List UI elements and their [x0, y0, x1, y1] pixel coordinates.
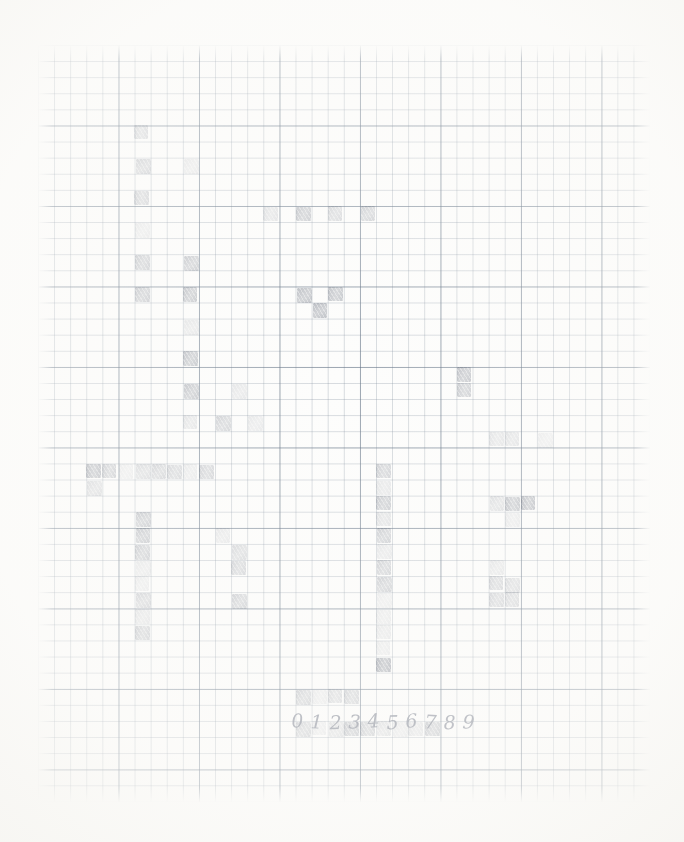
shaded-cell [231, 561, 246, 576]
handwritten-digit: 2 [326, 713, 345, 732]
handwritten-digit: 0 [287, 711, 307, 731]
shaded-cell [183, 464, 197, 479]
shaded-cell [134, 191, 149, 205]
shaded-cell [376, 481, 391, 495]
shaded-cell [489, 593, 504, 608]
shaded-cell [102, 464, 116, 478]
shaded-cell [505, 432, 519, 447]
shaded-cell [361, 206, 376, 222]
shaded-cell [376, 625, 391, 640]
shaded-cell [184, 319, 199, 334]
handwritten-digit: 6 [401, 711, 421, 731]
shaded-cell [376, 496, 391, 511]
handwritten-digit-row: 0123456789 [288, 712, 478, 731]
screenshot-root: 0123456789 [0, 0, 684, 842]
handwritten-digit: 5 [383, 713, 402, 732]
shaded-cell [376, 464, 391, 478]
shaded-cell [505, 592, 519, 607]
shaded-cell [489, 576, 503, 591]
handwritten-digit: 1 [307, 712, 327, 732]
shaded-cell [505, 513, 520, 527]
shaded-cell [216, 416, 231, 431]
handwritten-digit: 8 [440, 713, 459, 732]
shaded-cell [135, 576, 149, 591]
shaded-cell [136, 561, 151, 576]
shaded-cell [377, 560, 391, 575]
shaded-cell [136, 512, 151, 528]
shaded-cell [135, 255, 150, 270]
grid-area [38, 45, 650, 802]
shaded-cell [184, 159, 199, 174]
shaded-cell [344, 690, 359, 705]
shaded-cell [199, 465, 214, 480]
shaded-cell [184, 256, 199, 271]
shaded-cell [457, 367, 471, 382]
shaded-cell [86, 464, 101, 478]
shaded-cell [312, 690, 327, 704]
handwritten-digit: 7 [421, 712, 441, 732]
shaded-cell [232, 384, 247, 399]
shaded-cell [505, 496, 520, 510]
shaded-cell [376, 658, 391, 672]
shaded-cell [134, 125, 148, 139]
shaded-cell [457, 383, 472, 397]
shaded-cell [136, 159, 151, 174]
shaded-cell [183, 286, 197, 301]
shaded-cell [377, 528, 392, 543]
shaded-cell [328, 206, 342, 221]
shaded-cell [296, 207, 311, 222]
shaded-cell [183, 351, 198, 366]
shaded-cell [490, 560, 504, 575]
shaded-cell [263, 206, 278, 220]
shaded-cell [135, 287, 150, 302]
shaded-cell [152, 463, 166, 478]
shaded-cell [376, 610, 391, 625]
shaded-cell [538, 433, 553, 448]
shaded-cell [136, 464, 151, 480]
shaded-cell [328, 287, 343, 301]
shaded-cell [377, 593, 392, 608]
shaded-cell [167, 465, 182, 480]
shaded-cell [490, 496, 504, 511]
handwritten-digit: 4 [363, 711, 383, 731]
shaded-cell [216, 528, 231, 543]
graph-paper-sheet: 0123456789 [0, 0, 684, 842]
shaded-cell [232, 545, 247, 560]
shaded-cell [328, 689, 343, 703]
shaded-cell [376, 641, 391, 655]
shaded-cell [87, 481, 102, 496]
shaded-cell [296, 690, 311, 705]
shaded-cell [505, 577, 520, 592]
shaded-cell [248, 416, 263, 431]
shaded-cell [135, 609, 150, 624]
shaded-cell [183, 415, 197, 430]
grid-bold-lines [38, 45, 650, 802]
shaded-cell [313, 303, 328, 319]
shaded-cell [297, 287, 312, 302]
handwritten-digit: 9 [459, 712, 479, 732]
shaded-cell [232, 594, 247, 609]
shaded-cell [489, 432, 504, 446]
shaded-cell [136, 528, 150, 543]
shaded-cell [135, 626, 150, 641]
shaded-cell [135, 545, 150, 560]
shaded-cell [377, 544, 392, 559]
shaded-cell [521, 496, 535, 510]
shaded-cell [376, 512, 391, 526]
handwritten-digit: 3 [345, 712, 365, 732]
shaded-cell [119, 464, 133, 479]
shaded-cell [184, 384, 199, 399]
shaded-cell [377, 577, 392, 592]
shaded-cell [135, 223, 150, 238]
shaded-cell [136, 593, 151, 608]
